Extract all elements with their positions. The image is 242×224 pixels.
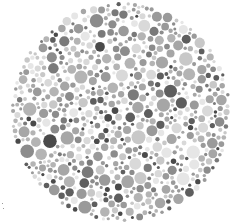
speck xyxy=(2,203,3,204)
speck xyxy=(3,208,4,209)
dot-plate xyxy=(0,0,242,224)
